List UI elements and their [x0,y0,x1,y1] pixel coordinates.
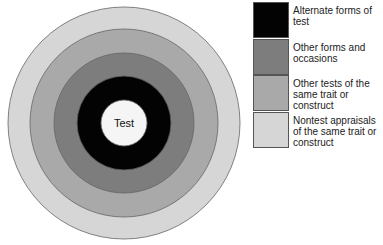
legend-swatch [253,2,289,38]
legend-item-other-forms: Other forms and occasions [253,39,383,76]
legend-swatch [253,112,289,148]
legend-swatch [253,39,289,75]
legend: Alternate forms of test Other forms and … [253,2,383,148]
legend-label: Alternate forms of test [293,5,383,27]
concentric-circles-diagram: Test [0,0,250,245]
legend-label: Other forms and occasions [293,42,383,64]
center-label: Test [114,117,134,129]
legend-item-nontest-appraisals: Nontest appraisals of the same trait or … [253,112,383,149]
legend-item-other-tests: Other tests of the same trait or constru… [253,75,383,112]
legend-label: Other tests of the same trait or constru… [293,78,383,111]
legend-item-alternate-forms: Alternate forms of test [253,2,383,39]
legend-label: Nontest appraisals of the same trait or … [293,115,383,148]
legend-swatch [253,75,289,111]
